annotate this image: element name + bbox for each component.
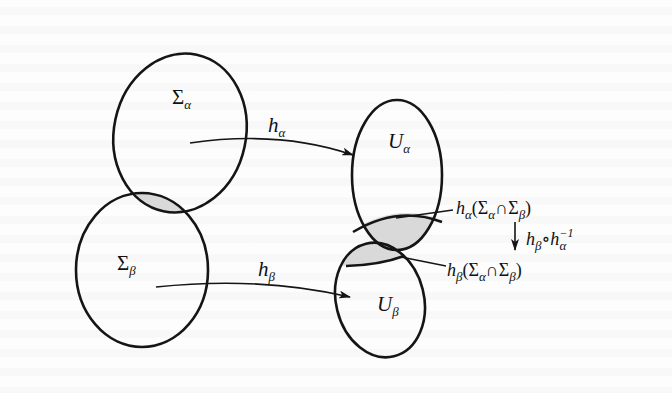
label-h-beta-intersection: hβ(Σα∩Σβ) [447,261,522,279]
label-u-alpha: Uα [388,131,410,152]
set-sigma-alpha-outline [99,41,261,225]
h-beta-arrow [156,283,350,297]
set-sigma-beta-outline [76,193,208,347]
label-u-beta: Uβ [377,294,399,315]
label-transition-map: hβ∘h−1α [526,230,566,248]
label-h-alpha-intersection: hα(Σα∩Σβ) [456,199,531,217]
diagram-canvas: Σα Σβ Uα Uβ hα hβ hα(Σα∩Σβ) hβ(Σα∩Σβ) hβ… [0,0,672,393]
label-sigma-alpha: Σα [172,87,191,108]
label-sigma-beta: Σβ [117,253,136,274]
diagram-svg [0,0,672,393]
label-h-beta: hβ [258,259,275,280]
label-h-alpha: hα [268,115,285,136]
h-alpha-arrow [190,139,353,155]
